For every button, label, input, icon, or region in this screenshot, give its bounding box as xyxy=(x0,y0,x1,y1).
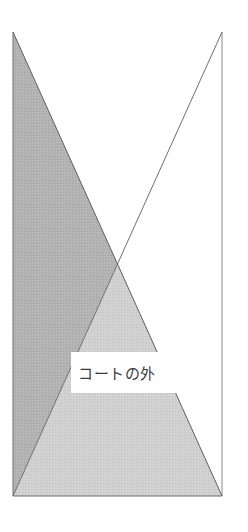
out-of-court-label: コートの外 xyxy=(78,362,156,383)
out-of-court-label-box: コートの外 xyxy=(71,352,176,393)
court-diagram xyxy=(0,0,248,532)
